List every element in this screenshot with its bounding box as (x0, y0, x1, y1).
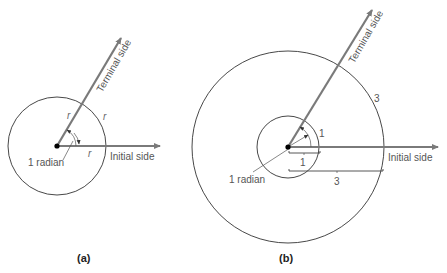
big-radius-label: 3 (334, 176, 340, 187)
terminal-side-ray-a (57, 38, 121, 146)
radius-label-terminal-a: r (67, 110, 71, 121)
small-arc-label: 1 (319, 128, 325, 139)
caption-a: (a) (77, 252, 91, 264)
terminal-side-label-a: Terminal side (94, 37, 133, 94)
radian-diagram: r r r 1 radian Initial side Terminal sid… (0, 0, 447, 273)
caption-b: (b) (279, 252, 293, 264)
small-radius-label: 1 (300, 157, 306, 168)
panel-b: 1 3 1 3 1 radian Initial side Terminal s… (192, 8, 438, 264)
arc-label-a: r (103, 111, 107, 122)
big-radius-bracket (289, 169, 383, 171)
initial-side-label-a: Initial side (110, 151, 155, 162)
initial-side-label-b: Initial side (388, 152, 433, 163)
terminal-side-ray-b (288, 10, 372, 147)
big-arc-label: 3 (374, 93, 380, 104)
angle-label-a: 1 radian (28, 157, 64, 168)
radius-label-initial-a: r (88, 148, 92, 159)
vertex-dot-a (54, 143, 59, 148)
angle-label-b: 1 radian (229, 174, 265, 185)
panel-a: r r r 1 radian Initial side Terminal sid… (8, 37, 160, 264)
small-radius-bracket (289, 151, 320, 153)
vertex-dot-b (285, 144, 290, 149)
radian-leader-a (63, 141, 73, 160)
radian-leader-b (253, 148, 290, 172)
angle-arc-b (300, 127, 311, 147)
terminal-side-label-b: Terminal side (346, 8, 385, 65)
